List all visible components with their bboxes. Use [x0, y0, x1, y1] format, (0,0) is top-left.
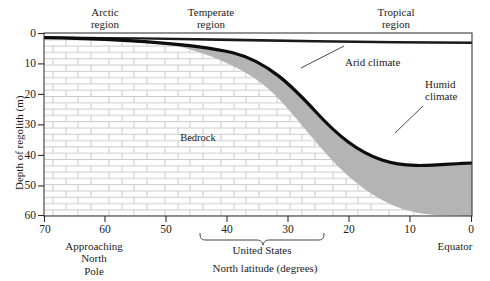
x-tick-0: 0 — [468, 223, 474, 236]
arctic-line2: region — [91, 18, 119, 30]
equator-note: Equator — [438, 240, 473, 252]
approaching-north-pole-note: Approaching North Pole — [65, 240, 122, 277]
x-axis-ticks — [45, 216, 472, 222]
bedrock-label: Bedrock — [180, 132, 216, 144]
regolith-depth-figure — [0, 0, 490, 281]
x-tick-40: 40 — [221, 223, 233, 236]
x-tick-50: 50 — [160, 223, 172, 236]
x-tick-20: 20 — [343, 223, 355, 236]
x-tick-10: 10 — [404, 223, 416, 236]
y-tick-20: 20 — [14, 88, 36, 101]
arctic-line1: Arctic — [91, 6, 119, 18]
x-tick-60: 60 — [99, 223, 111, 236]
y-axis-title: Depth of regolith (m) — [13, 96, 25, 190]
y-tick-10: 10 — [14, 57, 36, 70]
x-tick-30: 30 — [282, 223, 294, 236]
united-states-label: United States — [233, 244, 292, 256]
humid-climate-label: Humid climate — [425, 78, 457, 103]
y-tick-0: 0 — [20, 27, 36, 40]
north-pole-line3: Pole — [65, 265, 122, 277]
region-label-temperate: Temperate region — [188, 6, 234, 31]
y-axis-ticks — [38, 34, 44, 216]
x-axis-title: North latitude (degrees) — [212, 262, 317, 274]
y-tick-50: 50 — [14, 179, 36, 192]
arid-climate-label: Arid climate — [345, 56, 400, 68]
humid-line2: climate — [425, 90, 457, 102]
tropical-line1: Tropical — [378, 6, 415, 18]
tropical-line2: region — [378, 18, 415, 30]
y-tick-30: 30 — [14, 118, 36, 131]
humid-line1: Humid — [425, 78, 457, 90]
y-tick-40: 40 — [14, 149, 36, 162]
north-pole-line2: North — [65, 252, 122, 264]
temperate-line1: Temperate — [188, 6, 234, 18]
region-label-tropical: Tropical region — [378, 6, 415, 31]
y-tick-60: 60 — [14, 209, 36, 222]
temperate-line2: region — [188, 18, 234, 30]
region-label-arctic: Arctic region — [91, 6, 119, 31]
x-tick-70: 70 — [39, 223, 51, 236]
north-pole-line1: Approaching — [65, 240, 122, 252]
